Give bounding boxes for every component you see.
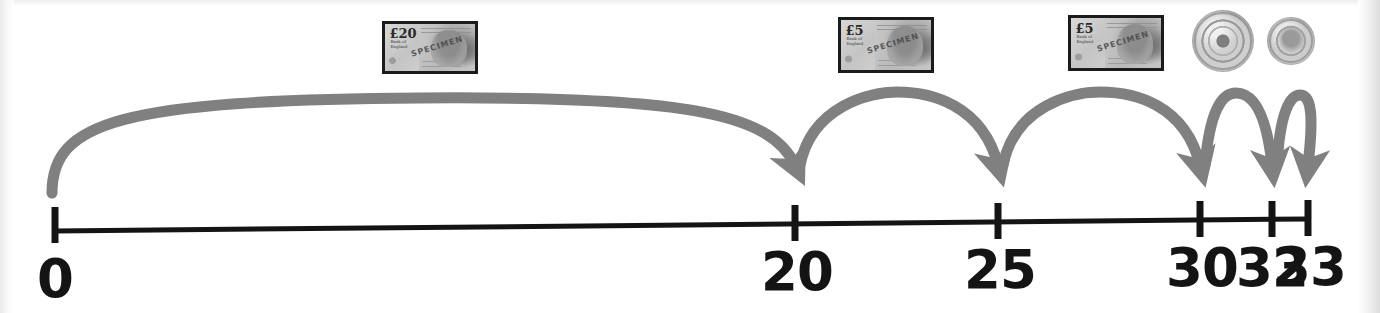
tick-label-33: 33	[1274, 240, 1346, 293]
banknote-5a-image: £5 Bank of England SPECIMEN	[838, 17, 934, 73]
tick-label-25: 25	[964, 243, 1036, 296]
jump-arc-0-to-20	[52, 98, 795, 193]
coin-two-pound-image	[1192, 10, 1254, 72]
jump-arcs	[52, 92, 1311, 193]
banknote-5b-denomination: £5	[1076, 22, 1094, 35]
figure-canvas: 0 20 25 30 32 33 £20 Bank of England SPE…	[0, 0, 1380, 313]
tick-label-20: 20	[761, 245, 833, 298]
axis-line	[55, 219, 1308, 231]
money-note-5-b: £5 Bank of England SPECIMEN	[1068, 15, 1164, 71]
axis-group	[55, 200, 1308, 243]
banknote-20-issuer: Bank of England	[390, 40, 413, 49]
coin-one-pound-image	[1267, 17, 1315, 65]
money-coin-2	[1192, 10, 1254, 72]
banknote-5a-denomination: £5	[846, 24, 864, 37]
banknote-20-image: £20 Bank of England SPECIMEN	[382, 21, 478, 74]
jump-arc-30-to-32	[1205, 93, 1272, 165]
money-coin-1	[1267, 17, 1315, 65]
money-note-20: £20 Bank of England SPECIMEN	[382, 21, 478, 74]
jump-arc-25-to-30	[1003, 92, 1200, 165]
banknote-5a-issuer: Bank of England	[846, 37, 868, 46]
coin-two-pound-rim	[1194, 12, 1251, 69]
coin-one-pound-rim	[1269, 19, 1313, 63]
banknote-5b-issuer: Bank of England	[1076, 35, 1098, 44]
tick-label-30: 30	[1166, 241, 1238, 294]
money-note-5-a: £5 Bank of England SPECIMEN	[838, 17, 934, 73]
jump-arc-32-to-33	[1277, 95, 1311, 165]
banknote-5b-image: £5 Bank of England SPECIMEN	[1068, 15, 1164, 71]
jump-arc-20-to-25	[800, 92, 998, 165]
tick-label-0: 0	[37, 252, 73, 305]
